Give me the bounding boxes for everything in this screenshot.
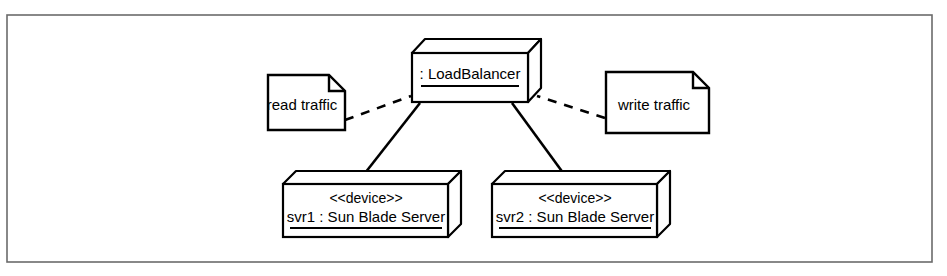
note-read-traffic[interactable]: read traffic: [267, 75, 345, 130]
node-loadbalancer-top-face: [412, 39, 541, 53]
node-svr1-label: svr1 : Sun Blade Server: [287, 208, 445, 225]
node-svr1-top-face: [283, 171, 461, 184]
node-svr2-side-face: [657, 171, 670, 237]
note-write-traffic-text: write traffic: [617, 96, 691, 113]
node-svr1-stereotype: <<device>>: [329, 190, 402, 206]
note-read-traffic-text: read traffic: [267, 96, 338, 113]
node-svr2-top-face: [492, 171, 670, 184]
node-loadbalancer[interactable]: : LoadBalancer: [412, 39, 541, 102]
node-svr2[interactable]: <<device>> svr2 : Sun Blade Server: [492, 171, 670, 237]
node-svr1-side-face: [448, 171, 461, 237]
node-svr1[interactable]: <<device>> svr1 : Sun Blade Server: [283, 171, 461, 237]
node-loadbalancer-label: : LoadBalancer: [420, 65, 521, 82]
node-svr2-label: svr2 : Sun Blade Server: [496, 208, 654, 225]
note-write-traffic[interactable]: write traffic: [606, 72, 709, 133]
deployment-diagram-figure: : LoadBalancer read traffic write traffi…: [0, 0, 947, 276]
node-svr2-stereotype: <<device>>: [538, 190, 611, 206]
